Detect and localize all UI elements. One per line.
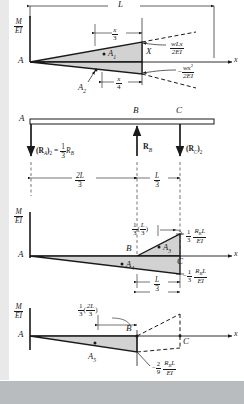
panel1-x-axis-label: x (234, 56, 238, 64)
panel3-axis-MEI: MEI (14, 208, 23, 224)
panel3-cen-close: ) (146, 226, 148, 233)
panel2-reaction-C-label: (RC)2 (186, 145, 202, 155)
panel4-cen-close: ) (95, 307, 97, 314)
panel3-pos-fden: 3 (186, 237, 191, 244)
panel4-axis-MEI: MEI (14, 303, 23, 319)
panel4-axis-EI: EI (14, 312, 23, 320)
panel3-pos-L: L (201, 227, 205, 234)
panel2-reaction-A-label: (RA)2=13RB (36, 143, 74, 159)
panel4-L: L (171, 359, 175, 366)
panel1-A1-sub: 1 (113, 54, 116, 60)
panel2-RA-RB-sub: B (71, 150, 74, 156)
panel1-area-A1: A1 (108, 49, 116, 60)
panel2-RA-open: (R (36, 146, 44, 155)
panel3-point-C: C (177, 257, 183, 266)
panel1-area-A2: A2 (78, 83, 86, 94)
panel1-point-X: X (146, 47, 152, 56)
engineering-figure: L MEI x3 x4 A X A1 A2 wLx2EI −wx22EI x A… (0, 0, 244, 404)
panel1-lower-num: wx (183, 64, 191, 72)
panel3-A4-sub: 4 (131, 265, 134, 271)
panel1-x4-den: 4 (116, 84, 122, 91)
panel2-RC-open: (R (186, 144, 194, 153)
panel2-RC-sub-2: 2 (200, 149, 203, 155)
panel4-cen-in-den: 3 (86, 311, 95, 318)
panel3-centroid-dim: 13(L3) (132, 222, 148, 237)
panel3-axis-EI: EI (14, 217, 23, 225)
panel2-RA-eq: = (54, 146, 58, 155)
panel4-point-B: B (126, 324, 132, 333)
panel1-axis-MEI: MEI (14, 18, 23, 34)
panel3-point-B: B (126, 244, 132, 253)
panel4-fden: 9 (156, 369, 161, 376)
panel2-2L-den: 3 (75, 181, 85, 189)
panel4-EI: EI (163, 370, 176, 377)
panel2-dim-L-over-3: L3 (154, 172, 160, 188)
panel3-A3-sub: 3 (168, 248, 171, 254)
panel4-area-A5: A5 (88, 352, 96, 363)
panel3-neg-fden: 3 (187, 277, 192, 284)
panel1-dim-x-over-3: x3 (112, 27, 118, 42)
panel2-L3-den: 3 (154, 181, 160, 189)
panel3-L3-den: 3 (154, 285, 160, 293)
panel1-formula-lower: −wx22EI (178, 64, 194, 81)
panel2-point-C: C (176, 106, 182, 115)
panel4-value-negative: −29RBLEI (152, 360, 176, 377)
panel1-axis-EI: EI (14, 27, 23, 35)
panel1-upper-den: 2EI (170, 49, 184, 56)
panel3-dim-L-over-3: L3 (154, 276, 160, 292)
panel4-centroid-dim: 13(2L3) (78, 303, 98, 318)
panel1-x3-den: 3 (112, 35, 118, 42)
panel1-dim-L: L (118, 0, 123, 9)
panel4-x-axis-label: x (234, 330, 238, 338)
panel2-point-A: A (19, 114, 25, 123)
panel3-area-A3: A3 (163, 243, 171, 254)
panel3-neg-EI: EI (194, 278, 207, 285)
panel3-value-negative: −13RBLEI (183, 268, 207, 285)
panel1-point-A: A (18, 56, 24, 65)
figure-vector-layer (0, 0, 244, 404)
panel4-A5-sub: 5 (93, 357, 96, 363)
panel1-formula-upper: wLx2EI (170, 41, 184, 56)
panel3-value-positive: 13RBLEI (186, 228, 206, 245)
panel3-pos-EI: EI (193, 238, 206, 245)
panel3-x-axis-label: x (234, 250, 238, 258)
panel3-area-A4: A4 (126, 260, 134, 271)
panel2-RB-sub: B (149, 147, 152, 153)
panel2-reaction-B-label: RB (143, 143, 152, 153)
panel4-point-C: C (183, 337, 189, 346)
panel2-dim-2L-over-3: 2L3 (75, 172, 85, 188)
panel1-dim-x-over-4: x4 (116, 76, 122, 91)
panel3-point-A: A (18, 250, 24, 259)
panel2-RA-sub-2: 2 (50, 150, 53, 156)
panel1-lower-sup: 2 (191, 63, 193, 68)
panel4-point-A: A (18, 330, 24, 339)
panel1-lower-den: 2EI (182, 73, 194, 80)
panel1-A2-sub: 2 (83, 88, 86, 94)
panel2-point-B: B (133, 106, 139, 115)
panel3-neg-L: L (202, 267, 206, 274)
